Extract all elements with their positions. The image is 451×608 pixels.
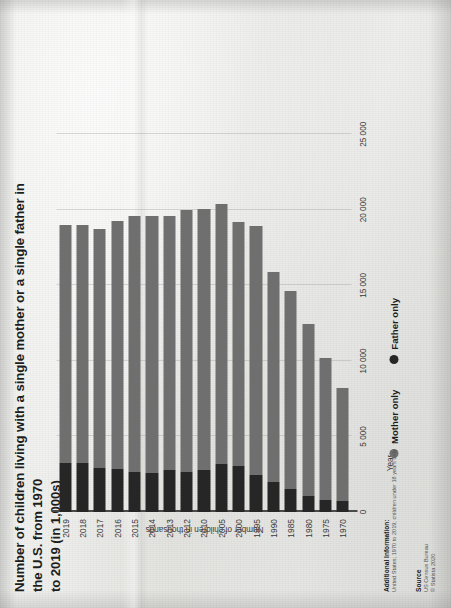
bar-row: 2015 <box>128 216 140 512</box>
bar-row: 1995 <box>249 226 261 512</box>
bar-segment-mother-only <box>180 210 192 472</box>
bar-segment-mother-only <box>59 225 71 463</box>
category-axis-tick-label: 1980 <box>303 519 313 538</box>
bar-row: 2012 <box>180 210 192 512</box>
chart-legend: Mother only Father only <box>388 298 399 458</box>
category-axis-tick-label: 1970 <box>337 519 347 538</box>
category-axis-tick-label: 2018 <box>77 519 87 538</box>
additional-information-block: Additional Information: United States; 1… <box>382 474 397 592</box>
bar-row: 1980 <box>302 324 314 512</box>
value-axis-title: Number of children in thousands <box>145 525 263 534</box>
bar-segment-mother-only <box>267 272 279 482</box>
statista-chart-page: Number of children living with a single … <box>0 0 451 608</box>
bar-row: 2017 <box>93 229 105 512</box>
bar-row: 2010 <box>197 209 209 512</box>
bar-segment-father-only <box>76 463 88 512</box>
bar-segment-father-only <box>180 472 192 512</box>
bar-segment-mother-only <box>249 226 261 475</box>
bar-segment-mother-only <box>145 216 157 473</box>
bar-segment-mother-only <box>319 358 331 500</box>
additional-information-text: United States; 1970 to 2019; children un… <box>390 474 397 592</box>
value-axis-tick-label: 10 000 <box>358 348 367 373</box>
legend-label-mother-only: Mother only <box>388 390 399 444</box>
bar-segment-mother-only <box>128 216 140 472</box>
rotated-page-wrapper: Number of children living with a single … <box>0 0 451 608</box>
category-axis-tick-label: 1975 <box>320 519 330 538</box>
bar-row: 2014 <box>145 216 157 512</box>
bar-segment-father-only <box>284 489 296 512</box>
value-axis-tick-label: 25 000 <box>358 122 367 147</box>
bar-segment-mother-only <box>336 388 348 501</box>
bar-row: 1970 <box>336 388 348 512</box>
bar-segment-father-only <box>111 469 123 512</box>
category-axis-tick-label: 1985 <box>285 519 295 538</box>
plot-area: 1970197519801985199019952000200520102012… <box>56 104 351 512</box>
legend-item-mother-only[interactable]: Mother only <box>388 390 399 458</box>
category-axis-tick-label: 1990 <box>268 519 278 538</box>
category-axis-tick-label: 2015 <box>129 519 139 538</box>
bar-segment-mother-only <box>232 222 244 466</box>
category-axis-tick-label: 2019 <box>60 519 70 538</box>
bar-segment-mother-only <box>76 225 88 463</box>
bar-segment-mother-only <box>111 221 123 470</box>
bar-segment-father-only <box>197 470 209 512</box>
bar-row: 2000 <box>232 222 244 512</box>
source-line-1: US Census Bureau <box>422 402 429 592</box>
source-line-2: © Statista 2020 <box>429 402 436 592</box>
category-axis-tick-label: 2016 <box>112 519 122 538</box>
legend-item-father-only[interactable]: Father only <box>388 298 399 364</box>
bar-segment-father-only <box>93 468 105 512</box>
source-block: Source US Census Bureau © Statista 2020 <box>414 402 437 592</box>
bar-row: 2019 <box>59 225 71 512</box>
bar-segment-father-only <box>267 482 279 512</box>
value-axis-tick-label: 0 <box>358 510 367 515</box>
source-heading: Source <box>414 402 421 592</box>
bar-segment-mother-only <box>215 204 227 463</box>
bar-row: 1975 <box>319 358 331 512</box>
bar-segment-father-only <box>145 473 157 512</box>
value-axis-tick-label: 15 000 <box>358 273 367 298</box>
bar-row: 2005 <box>215 204 227 512</box>
bar-segment-father-only <box>59 463 71 512</box>
chart-title-line-1: Number of children living with a single … <box>10 162 46 592</box>
legend-dot-icon <box>389 355 398 364</box>
bar-segment-father-only <box>128 472 140 512</box>
bar-row: 2018 <box>76 225 88 512</box>
value-axis-tick-label: 5 000 <box>358 426 367 447</box>
bar-segment-father-only <box>249 475 261 512</box>
bar-segment-mother-only <box>302 324 314 496</box>
bar-segment-mother-only <box>197 209 209 470</box>
bar-row: 1990 <box>267 272 279 512</box>
additional-information-heading: Additional Information: <box>382 474 389 592</box>
bar-segment-father-only <box>215 464 227 512</box>
bar-segment-mother-only <box>163 216 175 470</box>
bar-segment-father-only <box>163 471 175 513</box>
legend-label-father-only: Father only <box>388 298 399 350</box>
bar-row: 2016 <box>111 221 123 512</box>
value-axis-tick-label: 20 000 <box>358 197 367 222</box>
bar-segment-mother-only <box>284 291 296 489</box>
gridline <box>56 133 351 134</box>
bar-segment-father-only <box>302 496 314 512</box>
category-axis-tick-label: 2017 <box>94 519 104 538</box>
bar-segment-father-only <box>319 500 331 512</box>
bar-row: 2013 <box>163 216 175 512</box>
bar-segment-father-only <box>336 501 348 512</box>
bar-segment-mother-only <box>93 229 105 468</box>
bar-row: 1985 <box>284 291 296 512</box>
bar-segment-father-only <box>232 466 244 512</box>
